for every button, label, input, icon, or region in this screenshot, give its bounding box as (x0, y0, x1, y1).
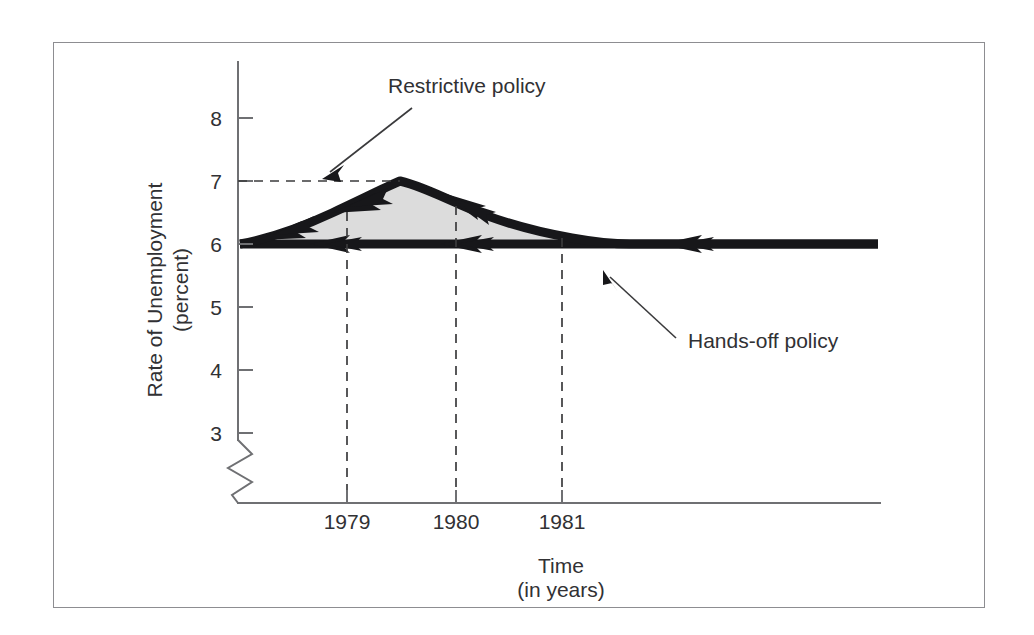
y-axis-title: Rate of Unemployment (143, 182, 166, 397)
y-tick-label-3: 3 (210, 422, 222, 445)
restrictive-policy-annotation-label: Restrictive policy (388, 74, 546, 97)
x-axis-title: Time (538, 554, 584, 577)
hands-off-policy-annotation-label: Hands-off policy (688, 329, 839, 352)
x-tick-label-1979: 1979 (324, 510, 371, 533)
hands-off-policy-annotation-arrow (610, 277, 676, 338)
restrictive-policy-annotation-arrow (330, 108, 412, 172)
y-tick-label-6: 6 (210, 233, 222, 256)
y-tick-label-5: 5 (210, 296, 222, 319)
y-tick-label-4: 4 (210, 359, 222, 382)
unemployment-chart: 8 7 6 5 4 3 1979 1980 1981 Rate of Unemp… (0, 0, 1034, 635)
x-axis-title-sub: (in years) (517, 578, 605, 601)
y-tick-label-8: 8 (210, 107, 222, 130)
y-axis-title-sub: (percent) (169, 248, 192, 332)
y-tick-label-7: 7 (210, 170, 222, 193)
x-tick-label-1981: 1981 (539, 510, 586, 533)
figure-root: 8 7 6 5 4 3 1979 1980 1981 Rate of Unemp… (0, 0, 1034, 635)
y-axis-break-zigzag (228, 440, 252, 503)
restrictive-policy-annotation-arrowhead (322, 165, 344, 182)
x-tick-label-1980: 1980 (433, 510, 480, 533)
hands-off-policy-annotation-arrowhead (603, 270, 618, 292)
